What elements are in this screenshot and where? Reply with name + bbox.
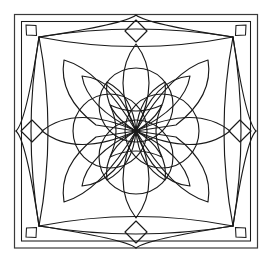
artboard (0, 0, 271, 270)
pattern-canvas (0, 0, 271, 270)
